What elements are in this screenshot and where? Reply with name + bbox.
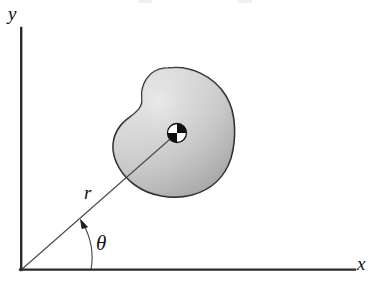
figure-canvas — [0, 0, 379, 282]
angle-arrow-head — [81, 220, 88, 229]
angle-arc-theta — [81, 220, 93, 271]
y-axis-label: y — [8, 4, 16, 23]
radius-vector-label: r — [84, 183, 91, 202]
x-axis-label: x — [357, 254, 365, 273]
center-of-mass-marker — [168, 124, 188, 144]
polar-coordinate-figure: y x r θ — [0, 0, 379, 282]
angle-theta-label: θ — [96, 233, 106, 254]
